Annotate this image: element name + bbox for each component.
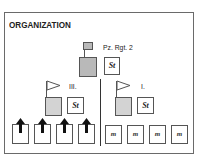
arrow-up-icon	[59, 118, 70, 134]
regiment-staff-box: St	[104, 57, 120, 75]
arrow-up-icon	[15, 118, 26, 134]
battalion-i-hq-box	[115, 97, 132, 116]
company-box: m	[149, 125, 166, 144]
company-box: m	[127, 125, 144, 144]
battalion-iii-hq-box	[45, 97, 62, 116]
arrow-up-icon	[37, 118, 48, 134]
section-title: ORGANIZATION	[9, 20, 71, 30]
regiment-hq-box	[79, 57, 97, 77]
company-box: m	[171, 125, 188, 144]
battalion-iii-label: III.	[69, 82, 77, 91]
battalion-divider	[100, 79, 101, 146]
battalion-i-label: I.	[141, 82, 145, 91]
company-box: m	[105, 125, 122, 144]
regiment-label: Pz. Rgt. 2	[103, 43, 133, 52]
pennant-flag-icon	[116, 80, 132, 92]
battalion-iii-staff-box: St	[67, 97, 84, 114]
battalion-i-staff-box: St	[137, 97, 154, 114]
regiment-flag-icon	[83, 42, 93, 50]
pennant-flag-icon	[46, 80, 62, 92]
arrow-up-icon	[81, 118, 92, 134]
